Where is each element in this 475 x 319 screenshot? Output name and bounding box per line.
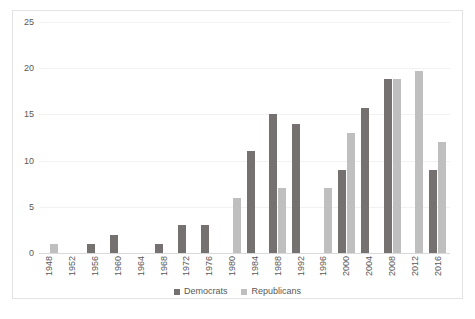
x-axis-tick-2000: 2000 [342,256,351,276]
x-axis-tick-1976: 1976 [205,256,214,276]
bar-democrats-1988 [269,114,277,253]
bar-democrats-2004 [361,108,369,253]
bar-republicans-2008 [393,79,401,253]
bar-group [245,22,268,253]
bar-group [336,22,359,253]
bar-democrats-1976 [201,225,209,253]
bar-group [313,22,336,253]
bar-republicans-2016 [438,142,446,253]
bar-democrats-2008 [384,79,392,253]
bar-republicans-2000 [347,133,355,253]
bar-group [359,22,382,253]
x-axis-tick-2016: 2016 [434,256,443,276]
bar-republicans-1948 [50,244,58,253]
bar-democrats-1984 [247,151,255,253]
x-axis-tick-1988: 1988 [274,256,283,276]
y-axis-tick-10: 10 [24,156,34,165]
x-axis-tick-1984: 1984 [251,256,260,276]
plot-area: 0510152025 [39,22,450,253]
legend-swatch-icon [174,289,180,295]
x-axis-tick-1948: 1948 [45,256,54,276]
x-axis-tick-1956: 1956 [91,256,100,276]
bar-group [222,22,245,253]
bar-group [267,22,290,253]
x-axis-tick-1996: 1996 [319,256,328,276]
bar-republicans-2012 [415,71,423,253]
bar-group [176,22,199,253]
bar-democrats-1992 [292,124,300,253]
bar-group [39,22,62,253]
bar-group [382,22,405,253]
bar-democrats-1956 [87,244,95,253]
y-axis-tick-15: 15 [24,110,34,119]
bar-series-group [39,22,450,253]
y-axis-tick-5: 5 [29,202,34,211]
legend-item-democrats[interactable]: Democrats [174,287,228,296]
bar-republicans-1980 [233,198,241,253]
chart-legend: DemocratsRepublicans [13,287,462,296]
x-axis-tick-1972: 1972 [182,256,191,276]
x-axis-tick-1968: 1968 [160,256,169,276]
bar-group [290,22,313,253]
x-axis-tick-1952: 1952 [68,256,77,276]
bar-group [199,22,222,253]
y-axis-tick-25: 25 [24,18,34,27]
y-axis-tick-0: 0 [29,249,34,258]
x-axis-tick-1964: 1964 [137,256,146,276]
x-axis-tick-1992: 1992 [297,256,306,276]
legend-item-republicans[interactable]: Republicans [241,287,301,296]
chart-container: 0510152025 19481952195619601964196819721… [12,10,463,299]
x-axis-tick-1960: 1960 [114,256,123,276]
bar-group [108,22,131,253]
legend-label: Democrats [184,287,228,296]
x-axis-tick-2012: 2012 [411,256,420,276]
bar-republicans-1988 [278,188,286,253]
bar-group [85,22,108,253]
x-axis-tick-2008: 2008 [388,256,397,276]
x-axis-tick-2004: 2004 [365,256,374,276]
bar-republicans-1996 [324,188,332,253]
bar-democrats-1972 [178,225,186,253]
bar-democrats-1960 [110,235,118,253]
bar-group [62,22,85,253]
bar-group [404,22,427,253]
x-axis-tick-1980: 1980 [228,256,237,276]
bar-group [427,22,450,253]
y-axis-tick-20: 20 [24,64,34,73]
x-axis: 1948195219561960196419681972197619801984… [39,254,450,290]
legend-label: Republicans [251,287,301,296]
bar-democrats-1968 [155,244,163,253]
bar-group [153,22,176,253]
legend-swatch-icon [241,289,247,295]
bar-democrats-2000 [338,170,346,253]
bar-group [130,22,153,253]
bar-democrats-2016 [429,170,437,253]
